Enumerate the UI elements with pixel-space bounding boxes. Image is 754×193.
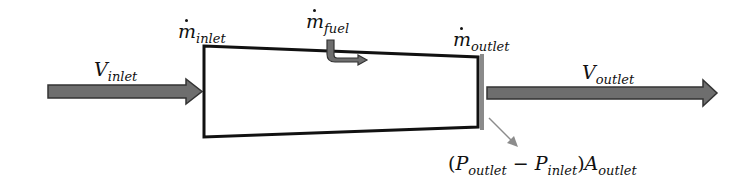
- label-v-inlet: Vinlet: [94, 60, 137, 79]
- diagram-canvas: [0, 0, 754, 193]
- outlet-plate: [480, 54, 484, 130]
- label-m-fuel: mfuel: [306, 12, 349, 31]
- label-m-outlet: moutlet: [453, 30, 510, 49]
- label-v-outlet: Voutlet: [582, 63, 634, 82]
- label-pressure-term: (Poutlet − Pinlet)Aoutlet: [448, 154, 637, 173]
- pressure-pointer-line: [489, 118, 513, 142]
- label-m-inlet: minlet: [178, 22, 226, 41]
